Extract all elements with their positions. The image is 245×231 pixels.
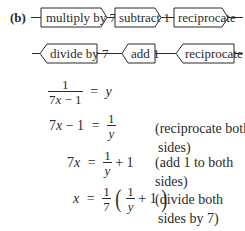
equation-2: 7x − 1 = 1 y bbox=[49, 112, 116, 140]
equation-1: 1 7x − 1 = y bbox=[48, 78, 112, 106]
comment-4: (divide both sides by 7) bbox=[155, 190, 223, 228]
equals-sign: = bbox=[87, 192, 95, 206]
inverse-step-add: add 1 bbox=[122, 44, 160, 63]
open-paren: ( bbox=[115, 186, 121, 212]
equation-3: 7x = 1 y + 1 bbox=[67, 149, 134, 177]
fraction: 1 y bbox=[107, 112, 116, 140]
equals-sign: = bbox=[90, 85, 98, 99]
lhs: 7x − 1 bbox=[49, 119, 84, 133]
lhs: x bbox=[73, 192, 79, 206]
equals-sign: = bbox=[88, 156, 96, 170]
forward-step-multiply: multiply by 7 bbox=[41, 8, 117, 27]
rhs: y bbox=[106, 85, 112, 99]
inverse-step-divide: divide by 7 bbox=[40, 44, 109, 63]
step-label: divide by 7 bbox=[50, 46, 109, 61]
fraction: 1 7x − 1 bbox=[48, 78, 83, 106]
comment-2: (reciprocate both sides) bbox=[155, 119, 245, 157]
forward-step-reciprocate: reciprocate bbox=[174, 8, 236, 27]
step-label: reciprocate bbox=[178, 10, 236, 25]
part-label: (b) bbox=[10, 10, 26, 25]
inverse-step-reciprocate: reciprocate bbox=[176, 44, 243, 63]
step-label: reciprocate bbox=[185, 46, 243, 61]
coefficient-fraction: 1 7 bbox=[102, 185, 111, 213]
function-machine-diagram: (b) multiply by 7 subtract 1 reciprocate… bbox=[0, 0, 245, 70]
step-label: add 1 bbox=[131, 46, 160, 61]
step-label: multiply by 7 bbox=[46, 10, 117, 25]
fraction: 1 y bbox=[103, 149, 112, 177]
inner-fraction: 1 y bbox=[126, 185, 135, 213]
equals-sign: = bbox=[92, 119, 100, 133]
forward-step-subtract: subtract 1 bbox=[115, 8, 170, 27]
step-label: subtract 1 bbox=[119, 10, 170, 25]
lhs: 7x bbox=[67, 156, 80, 170]
